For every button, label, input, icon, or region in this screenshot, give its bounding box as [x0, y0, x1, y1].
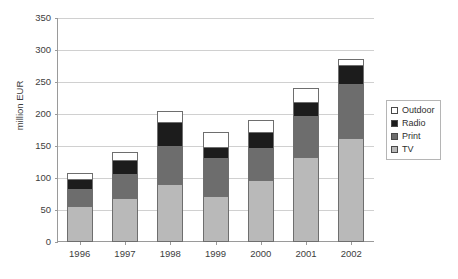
x-tick-mark: [125, 242, 126, 245]
bar-segment-print[interactable]: [112, 174, 138, 199]
y-tick-label: 100: [15, 172, 51, 183]
bar-segment-outdoor[interactable]: [293, 88, 319, 103]
bar-segment-outdoor[interactable]: [203, 132, 229, 148]
y-tick-label: 200: [15, 108, 51, 119]
bar-segment-tv[interactable]: [112, 198, 138, 242]
bar-segment-print[interactable]: [157, 146, 183, 186]
x-tick-mark: [170, 242, 171, 245]
legend-swatch-icon: [391, 120, 398, 127]
y-tick-mark: [55, 242, 58, 243]
y-tick-label: 300: [15, 44, 51, 55]
x-tick-mark: [80, 242, 81, 245]
bar-group[interactable]: [67, 173, 93, 242]
gridline: [58, 50, 374, 51]
legend-swatch-icon: [391, 133, 398, 140]
bar-segment-tv[interactable]: [157, 184, 183, 242]
gridline: [58, 114, 374, 115]
legend-item[interactable]: Radio: [391, 117, 435, 130]
y-tick-label: 350: [15, 12, 51, 23]
legend-swatch-icon: [391, 146, 398, 153]
bar-group[interactable]: [248, 120, 274, 242]
y-tick-label: 150: [15, 140, 51, 151]
x-tick-label: 2002: [321, 248, 381, 259]
y-tick-mark: [55, 82, 58, 83]
bar-segment-print[interactable]: [293, 116, 319, 158]
legend-label: Radio: [402, 119, 426, 128]
bar-segment-print[interactable]: [203, 158, 229, 197]
bar-group[interactable]: [157, 111, 183, 242]
x-tick-mark: [306, 242, 307, 245]
y-tick-mark: [55, 114, 58, 115]
y-tick-mark: [55, 18, 58, 19]
bar-segment-tv[interactable]: [248, 180, 274, 242]
bar-segment-tv[interactable]: [338, 138, 364, 242]
bar-segment-radio[interactable]: [293, 102, 319, 117]
x-tick-mark: [351, 242, 352, 245]
bar-segment-tv[interactable]: [203, 196, 229, 242]
legend-label: Outdoor: [402, 106, 435, 115]
y-tick-mark: [55, 146, 58, 147]
bar-segment-radio[interactable]: [112, 160, 138, 175]
y-tick-mark: [55, 50, 58, 51]
x-tick-mark: [216, 242, 217, 245]
legend-label: TV: [402, 145, 414, 154]
bar-segment-tv[interactable]: [293, 157, 319, 242]
bar-segment-print[interactable]: [248, 148, 274, 181]
legend: OutdoorRadioPrintTV: [386, 100, 441, 160]
y-tick-mark: [55, 178, 58, 179]
y-tick-mark: [55, 210, 58, 211]
legend-swatch-icon: [391, 107, 398, 114]
stacked-bar-chart: million EUR 050100150200250300350 199619…: [0, 0, 458, 279]
gridline: [58, 18, 374, 19]
bar-segment-radio[interactable]: [338, 65, 364, 85]
legend-item[interactable]: TV: [391, 143, 435, 156]
y-tick-label: 250: [15, 76, 51, 87]
bar-group[interactable]: [293, 88, 319, 242]
bar-segment-radio[interactable]: [157, 122, 183, 146]
x-tick-mark: [261, 242, 262, 245]
bar-group[interactable]: [338, 59, 364, 242]
legend-item[interactable]: Print: [391, 130, 435, 143]
y-tick-label: 0: [15, 236, 51, 247]
bar-segment-tv[interactable]: [67, 206, 93, 242]
gridline: [58, 82, 374, 83]
legend-item[interactable]: Outdoor: [391, 104, 435, 117]
bar-segment-print[interactable]: [67, 189, 93, 207]
legend-label: Print: [402, 132, 421, 141]
bar-segment-radio[interactable]: [248, 132, 274, 149]
bar-segment-print[interactable]: [338, 84, 364, 139]
bar-group[interactable]: [112, 152, 138, 242]
bar-group[interactable]: [203, 132, 229, 242]
y-tick-label: 50: [15, 204, 51, 215]
